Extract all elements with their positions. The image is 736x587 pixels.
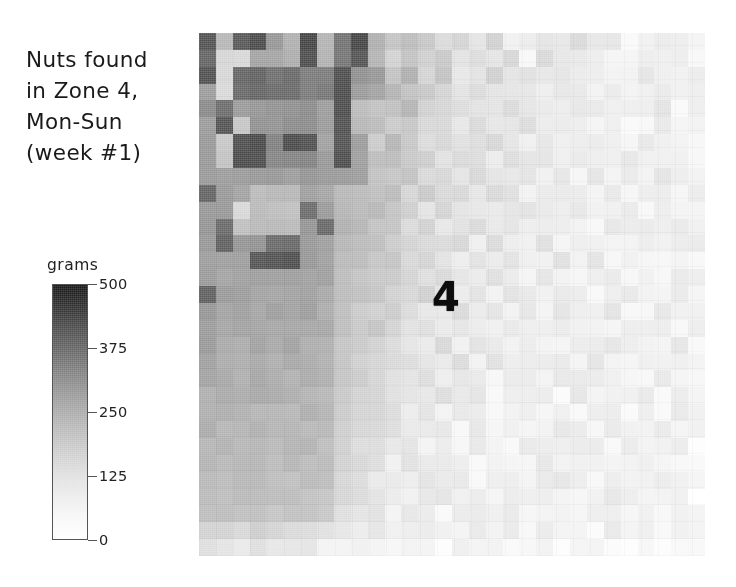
heatmap-cell [587,370,604,387]
heatmap-cell [452,252,469,269]
heatmap-cell [418,235,435,252]
heatmap-cell [418,151,435,168]
heatmap-cell [654,67,671,84]
heatmap-cell [587,185,604,202]
heatmap-cell [401,438,418,455]
heatmap-cell [401,455,418,472]
heatmap-cell [368,404,385,421]
heatmap-cell [368,354,385,371]
heatmap-cell [317,489,334,506]
heatmap-cell [385,286,402,303]
heatmap-cell [401,185,418,202]
heatmap-cell [317,472,334,489]
heatmap-cell [688,421,705,438]
heatmap-cell [300,421,317,438]
heatmap-cell [604,185,621,202]
heatmap-cell [266,235,283,252]
heatmap-cell [469,252,486,269]
heatmap-cell [638,489,655,506]
heatmap-cell [570,421,587,438]
heatmap-cell [469,337,486,354]
heatmap-cell [519,50,536,67]
heatmap-cell [368,387,385,404]
heatmap-cell [519,404,536,421]
heatmap-cell [503,235,520,252]
heatmap-cell [536,539,553,556]
heatmap-cell [283,472,300,489]
heatmap-cell [553,100,570,117]
heatmap-cell [553,472,570,489]
heatmap-cell [435,33,452,50]
heatmap-cell [283,84,300,101]
heatmap-cell [604,489,621,506]
heatmap-cell [317,438,334,455]
heatmap-cell [654,134,671,151]
heatmap-cell [401,320,418,337]
heatmap-cell [351,269,368,286]
heatmap-cell [300,387,317,404]
heatmap-cell [334,84,351,101]
heatmap-cell [233,50,250,67]
heatmap-cell [418,438,435,455]
heatmap-cell [233,320,250,337]
heatmap-cell [385,134,402,151]
heatmap-cell [621,151,638,168]
heatmap-cell [283,489,300,506]
heatmap-cell [418,252,435,269]
heatmap-cell [469,539,486,556]
heatmap-cell [368,219,385,236]
heatmap-cell [199,438,216,455]
heatmap-cell [519,303,536,320]
heatmap-cell [233,134,250,151]
heatmap-cell [688,252,705,269]
heatmap-cell [638,303,655,320]
heatmap-cell [469,286,486,303]
heatmap-cell [216,168,233,185]
heatmap-cell [469,354,486,371]
heatmap-cell [671,67,688,84]
heatmap-cell [553,50,570,67]
heatmap-cell [604,438,621,455]
heatmap-cell [671,168,688,185]
heatmap-cell [638,219,655,236]
heatmap-cell [503,151,520,168]
heatmap-cell [503,522,520,539]
heatmap-cell [587,421,604,438]
heatmap-cell [654,370,671,387]
heatmap-cell [503,84,520,101]
heatmap-cell [418,117,435,134]
heatmap-cell [334,286,351,303]
heatmap-cell [519,421,536,438]
heatmap-cell [300,522,317,539]
heatmap-cell [216,117,233,134]
heatmap-cell [671,404,688,421]
heatmap-cell [621,269,638,286]
heatmap-cell [283,134,300,151]
heatmap-cell [654,151,671,168]
heatmap-cell [250,67,267,84]
heatmap-cell [250,117,267,134]
heatmap-cell [452,489,469,506]
heatmap-cell [216,505,233,522]
heatmap-cell [334,472,351,489]
heatmap-cell [401,505,418,522]
heatmap-cell [503,67,520,84]
heatmap-cell [283,269,300,286]
heatmap-cell [233,168,250,185]
colorbar-unit-label: grams [47,256,98,274]
heatmap-cell [570,286,587,303]
heatmap-cell [368,134,385,151]
heatmap-cell [570,100,587,117]
heatmap-cell [671,354,688,371]
heatmap-cell [638,320,655,337]
heatmap-cell [553,134,570,151]
heatmap-cell [250,337,267,354]
heatmap-cell [638,168,655,185]
heatmap-cell [469,151,486,168]
heatmap-cell [536,168,553,185]
heatmap-cell [638,100,655,117]
heatmap-cell [418,185,435,202]
heatmap-cell [435,202,452,219]
heatmap-cell [250,370,267,387]
heatmap-cell [671,489,688,506]
